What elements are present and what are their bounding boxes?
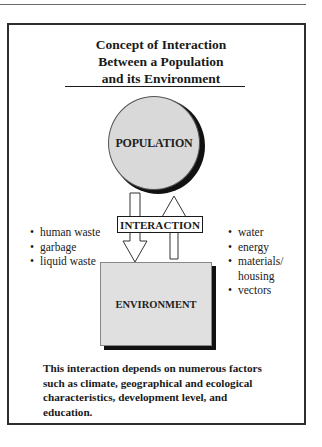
caption-line-4: education. — [43, 405, 293, 420]
list-item: •energy — [228, 240, 283, 255]
list-item: •materials/ — [228, 254, 283, 269]
list-item: •vectors — [228, 283, 283, 298]
bullet-icon: • — [228, 225, 232, 240]
environment-label: ENVIRONMENT — [115, 299, 196, 310]
outputs-list: •human waste •garbage •liquid waste — [30, 225, 100, 269]
caption-line-1: This interaction depends on numerous fac… — [43, 361, 293, 376]
bullet-icon: • — [228, 254, 232, 269]
caption-line-3: characteristics, development level, and — [43, 390, 293, 405]
bullet-icon: • — [30, 225, 34, 240]
list-item-continuation: housing — [228, 269, 283, 284]
bullet-icon: • — [228, 283, 232, 298]
inputs-list: •water •energy •materials/ housing •vect… — [228, 225, 283, 298]
diagram-caption: This interaction depends on numerous fac… — [43, 361, 293, 419]
interaction-label: INTERACTION — [120, 219, 200, 231]
environment-box: ENVIRONMENT — [100, 262, 212, 346]
list-item: •water — [228, 225, 283, 240]
interaction-label-box: INTERACTION — [117, 216, 203, 233]
list-item: •human waste — [30, 225, 100, 240]
bullet-icon: • — [228, 240, 232, 255]
list-item: •garbage — [30, 240, 100, 255]
bullet-icon: • — [30, 254, 34, 269]
list-item: •liquid waste — [30, 254, 100, 269]
caption-line-2: such as climate, geographical and ecolog… — [43, 376, 293, 391]
bullet-icon: • — [30, 240, 34, 255]
